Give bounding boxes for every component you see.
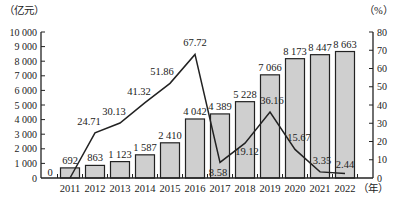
right-tick-label: 20 [377, 136, 387, 147]
right-tick-label: 80 [377, 27, 387, 38]
left-tick-label: 1 000 [15, 158, 38, 169]
bar-2016 [186, 119, 205, 178]
bar-value-label: 1 123 [108, 149, 132, 160]
left-tick-label: 9 000 [15, 41, 38, 52]
x-axis-unit: （年） [358, 182, 388, 194]
left-tick-label: 5 000 [15, 100, 38, 111]
x-tick-label: 2019 [260, 183, 281, 194]
bar-2015 [161, 143, 180, 178]
bar-2018 [236, 102, 255, 178]
x-tick-label: 2022 [335, 183, 356, 194]
right-axis-unit: （%） [364, 5, 393, 16]
bar-value-label: 2 410 [158, 130, 182, 141]
bar-2013 [111, 162, 130, 178]
left-tick-label: 6 000 [15, 85, 38, 96]
left-axis-unit: （亿元） [4, 4, 44, 16]
left-tick-label: 10 000 [10, 27, 38, 38]
growth-value-label: 15.67 [287, 132, 311, 143]
x-tick-label: 2021 [310, 183, 331, 194]
bar-value-label: 692 [62, 155, 78, 166]
bar-2012 [86, 165, 105, 178]
right-tick-label: 60 [377, 63, 387, 74]
bar-2020 [286, 59, 305, 178]
right-tick-label: 40 [377, 100, 387, 111]
bar-value-label: 7 066 [258, 62, 282, 73]
growth-value-label: 19.12 [235, 146, 259, 157]
x-tick-label: 2018 [235, 183, 256, 194]
right-tick-label: 30 [377, 118, 387, 129]
x-tick-label: 2016 [185, 183, 206, 194]
growth-value-label: 8.58 [209, 167, 227, 178]
right-tick-label: 50 [377, 81, 387, 92]
growth-value-label: 30.13 [102, 106, 126, 117]
bar-value-label: 4 389 [208, 101, 232, 112]
left-tick-label: 4 000 [15, 114, 38, 125]
x-tick-label: 2017 [210, 183, 231, 194]
left-tick-label: 7 000 [15, 70, 38, 81]
growth-value-label: 41.32 [127, 86, 151, 97]
growth-value-label: 36.16 [260, 95, 284, 106]
bar-value-label: 863 [87, 152, 103, 163]
growth-value-label: 24.71 [77, 116, 101, 127]
bar-value-label: 8 663 [333, 39, 357, 50]
bar-value-label: 1 587 [133, 142, 157, 153]
bar-value-label: 4 042 [183, 106, 207, 117]
left-tick-label: 2 000 [15, 143, 38, 154]
growth-value-label: 3.35 [313, 155, 331, 166]
left-tick-label: 8 000 [15, 56, 38, 67]
bar-2019 [261, 75, 280, 178]
x-tick-label: 2020 [285, 183, 306, 194]
bar-value-label: 8 447 [308, 42, 332, 53]
x-tick-label: 2013 [110, 183, 131, 194]
x-tick-label: 2011 [60, 183, 81, 194]
right-tick-label: 70 [377, 45, 387, 56]
bar-2014 [136, 155, 155, 178]
growth-value-label: 51.86 [150, 66, 174, 77]
left-tick-label: 3 000 [15, 129, 38, 140]
x-tick-label: 2015 [160, 183, 181, 194]
growth-value-label: 2.44 [336, 159, 355, 170]
growth-value-label: 0 [47, 167, 52, 178]
x-tick-label: 2012 [85, 183, 106, 194]
x-tick-label: 2014 [135, 183, 157, 194]
right-tick-label: 0 [377, 173, 382, 184]
bar-value-label: 8 173 [283, 46, 307, 57]
left-tick-label: 0 [32, 173, 37, 184]
bar-value-label: 5 228 [233, 89, 257, 100]
growth-value-label: 67.72 [183, 37, 207, 48]
right-tick-label: 10 [377, 154, 387, 165]
bar-line-chart: 01 0002 0003 0004 0005 0006 0007 0008 00… [0, 0, 398, 204]
